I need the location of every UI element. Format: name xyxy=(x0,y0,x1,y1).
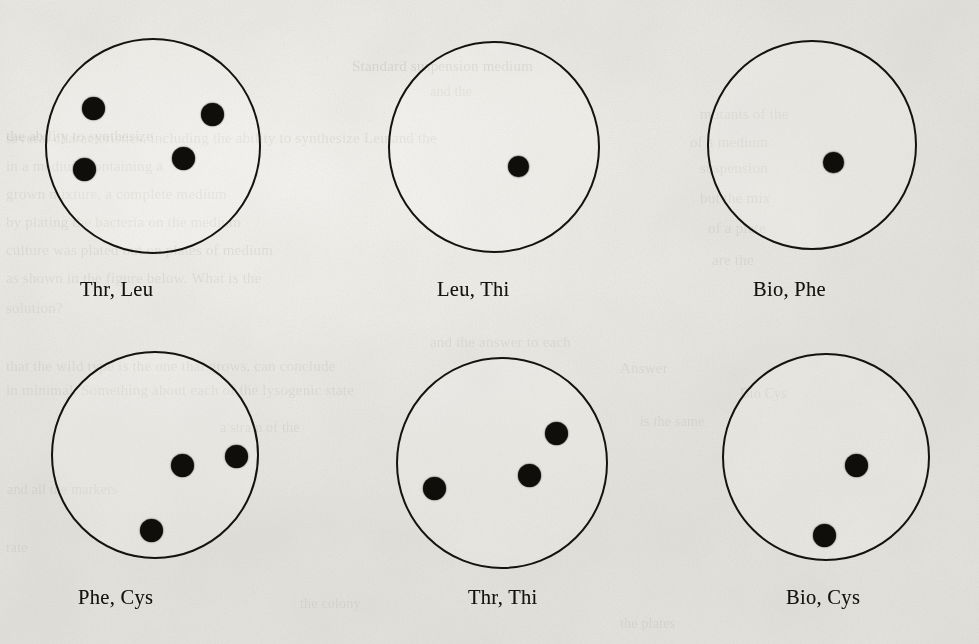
bacterial-colony-dot xyxy=(518,464,541,487)
plate-label: Phe, Cys xyxy=(78,586,153,609)
bacterial-colony-dot xyxy=(845,454,868,477)
scanned-page-background: Standard suspension mediumand thethe abi… xyxy=(0,0,979,644)
plate-label: Bio, Cys xyxy=(786,586,860,609)
bacterial-colony-dot xyxy=(423,477,446,500)
bacterial-colony-dot xyxy=(201,103,224,126)
petri-dish-outline xyxy=(45,38,261,254)
plate-label: Thr, Leu xyxy=(80,278,153,301)
petri-dish-outline xyxy=(388,41,600,253)
bacterial-colony-dot xyxy=(82,97,105,120)
bacterial-colony-dot xyxy=(140,519,163,542)
bacterial-colony-dot xyxy=(813,524,836,547)
bacterial-colony-dot xyxy=(171,454,194,477)
plate-label: Leu, Thi xyxy=(437,278,510,301)
bacterial-colony-dot xyxy=(545,422,568,445)
petri-dish-outline xyxy=(396,357,608,569)
petri-dish-outline xyxy=(707,40,917,250)
petri-plate-grid: Thr, LeuLeu, ThiBio, PhePhe, CysThr, Thi… xyxy=(0,0,979,644)
bacterial-colony-dot xyxy=(225,445,248,468)
bacterial-colony-dot xyxy=(172,147,195,170)
bacterial-colony-dot xyxy=(73,158,96,181)
plate-label: Bio, Phe xyxy=(753,278,826,301)
bacterial-colony-dot xyxy=(508,156,529,177)
bacterial-colony-dot xyxy=(823,152,844,173)
plate-label: Thr, Thi xyxy=(468,586,538,609)
